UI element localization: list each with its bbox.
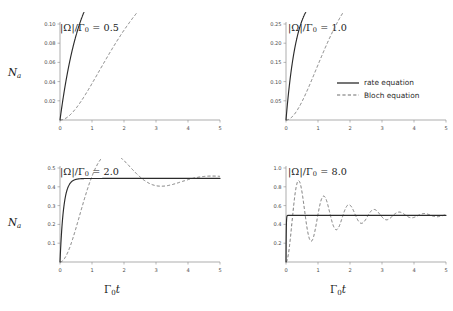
curve-rate-equation (286, 12, 446, 120)
x-tick-label: 5 (444, 125, 447, 131)
y-tick-label: 0.4 (47, 184, 55, 190)
x-tick-label: 4 (186, 125, 189, 131)
curve-rate-equation (286, 215, 446, 262)
x-tick-label: 1 (90, 267, 93, 273)
plot-area-bottom-right: 0.20.40.60.81.0012345 (256, 158, 452, 284)
y-tick-label: 0.1 (47, 240, 55, 246)
x-tick-label: 0 (58, 267, 61, 273)
y-tick-label: 0.10 (44, 21, 55, 27)
plot-area-bottom-left: 0.10.20.30.40.5012345 (30, 158, 226, 284)
y-tick-label: 0.4 (273, 221, 281, 227)
x-tick-label: 3 (154, 125, 157, 131)
y-tick-label: 0.3 (47, 203, 55, 209)
y-tick-label: 0.2 (47, 221, 55, 227)
x-tick-label: 3 (154, 267, 157, 273)
axis-label-x-left: Γ0t (104, 283, 120, 297)
y-tick-label: 0.05 (270, 98, 281, 104)
x-tick-label: 4 (412, 267, 415, 273)
y-tick-label: 0.15 (270, 59, 281, 65)
x-tick-label: 4 (186, 267, 189, 273)
plot-area-top-left: 0.020.040.060.080.10012345 (30, 12, 226, 142)
axis-label-y-bottom: Na (8, 216, 21, 230)
x-tick-label: 1 (90, 125, 93, 131)
x-tick-label: 0 (58, 125, 61, 131)
x-tick-label: 5 (444, 267, 447, 273)
x-tick-label: 1 (316, 125, 319, 131)
y-tick-label: 0.25 (270, 21, 281, 27)
plot-area-top-right: 0.050.100.150.200.25012345 (256, 12, 452, 142)
figure-canvas: Na Na Γ0t Γ0t |Ω|/Γ0 = 0.5 |Ω|/Γ0 = 1.0 … (0, 0, 453, 311)
x-tick-label: 1 (316, 267, 319, 273)
y-tick-label: 0.2 (273, 240, 281, 246)
x-tick-label: 3 (380, 125, 383, 131)
curve-bloch-equation (60, 12, 220, 120)
x-tick-label: 2 (122, 267, 125, 273)
y-tick-label: 1.0 (273, 165, 281, 171)
y-tick-label: 0.02 (44, 98, 55, 104)
plot-panel-bottom-right: 0.20.40.60.81.0012345 (256, 158, 452, 284)
x-tick-label: 0 (284, 267, 287, 273)
plot-panel-bottom-left: 0.10.20.30.40.5012345 (30, 158, 226, 284)
y-tick-label: 0.20 (270, 40, 281, 46)
curve-bloch-equation (286, 181, 446, 262)
x-tick-label: 2 (348, 267, 351, 273)
x-tick-label: 0 (284, 125, 287, 131)
curve-bloch-equation (286, 12, 446, 120)
x-tick-label: 4 (412, 125, 415, 131)
y-tick-label: 0.8 (273, 184, 281, 190)
curve-bloch-equation (60, 158, 220, 262)
curve-rate-equation (60, 178, 220, 262)
axis-label-x-right: Γ0t (330, 283, 346, 297)
y-tick-label: 0.5 (47, 165, 55, 171)
x-tick-label: 5 (218, 125, 221, 131)
x-tick-label: 3 (380, 267, 383, 273)
x-tick-label: 5 (218, 267, 221, 273)
y-tick-label: 0.04 (44, 79, 55, 85)
y-tick-label: 0.06 (44, 59, 55, 65)
curve-rate-equation (60, 12, 220, 120)
axis-label-y-top: Na (8, 66, 21, 80)
plot-panel-top-right: 0.050.100.150.200.25012345 (256, 12, 452, 142)
x-tick-label: 2 (348, 125, 351, 131)
y-tick-label: 0.6 (273, 203, 281, 209)
y-tick-label: 0.10 (270, 79, 281, 85)
y-tick-label: 0.08 (44, 40, 55, 46)
x-tick-label: 2 (122, 125, 125, 131)
plot-panel-top-left: 0.020.040.060.080.10012345 (30, 12, 226, 142)
